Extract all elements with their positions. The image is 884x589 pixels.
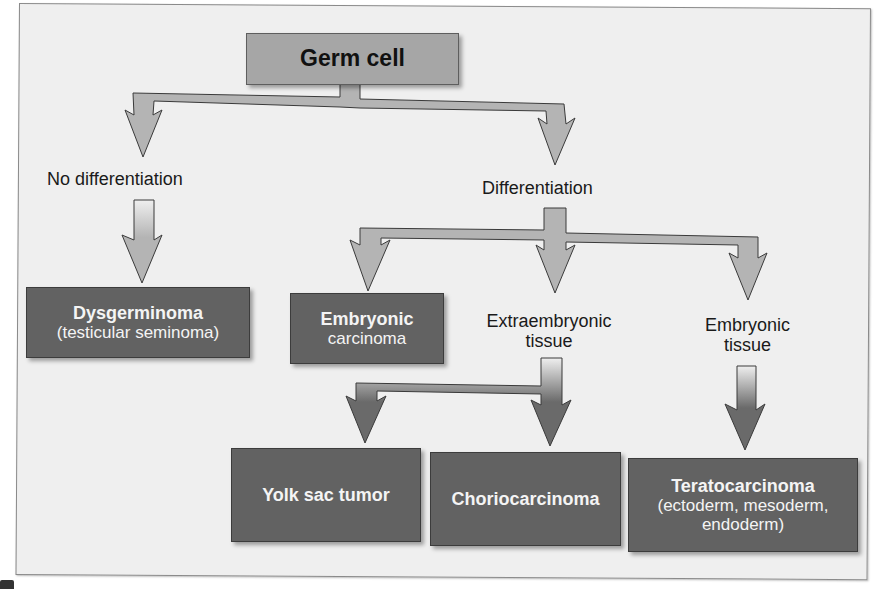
embryonic-tissue-line2: tissue [695,336,800,356]
germ-cell-box: Germ cell [246,33,459,85]
no-diff-arrow [122,200,162,283]
dysgerminoma-subtitle: (testicular seminoma) [57,323,220,342]
extraembryonic-split-arrow [346,358,571,446]
dysgerminoma-title: Dysgerminoma [73,303,203,323]
extraembryonic-line1: Extraembryonic [479,312,619,332]
dysgerminoma-box: Dysgerminoma (testicular seminoma) [26,287,250,358]
teratocarcinoma-box: Teratocarcinoma (ectoderm, mesoderm, end… [628,458,858,552]
extraembryonic-line2: tissue [479,332,619,352]
teratocarcinoma-line3: endoderm) [702,515,784,534]
extraembryonic-tissue-label: Extraembryonic tissue [479,312,619,352]
yolk-sac-tumor-box: Yolk sac tumor [231,448,421,542]
root-split-arrow [125,82,575,165]
caption-fragment [0,580,14,589]
choriocarcinoma-box: Choriocarcinoma [430,452,621,546]
embryonic-carcinoma-subtitle: carcinoma [328,329,406,348]
embryonic-tissue-arrow [725,366,765,450]
embryonic-carcinoma-box: Embryonic carcinoma [290,293,444,364]
no-differentiation-label: No differentiation [47,170,183,190]
embryonic-tissue-label: Embryonic tissue [695,316,800,356]
choriocarcinoma-title: Choriocarcinoma [451,489,599,509]
germ-cell-label: Germ cell [300,46,405,72]
embryonic-carcinoma-title: Embryonic [320,309,413,329]
diff-split-arrow [350,208,767,300]
yolk-sac-tumor-title: Yolk sac tumor [262,485,390,505]
teratocarcinoma-line2: (ectoderm, mesoderm, [658,496,829,515]
embryonic-tissue-line1: Embryonic [695,316,800,336]
teratocarcinoma-title: Teratocarcinoma [671,476,815,496]
differentiation-label: Differentiation [482,179,593,199]
